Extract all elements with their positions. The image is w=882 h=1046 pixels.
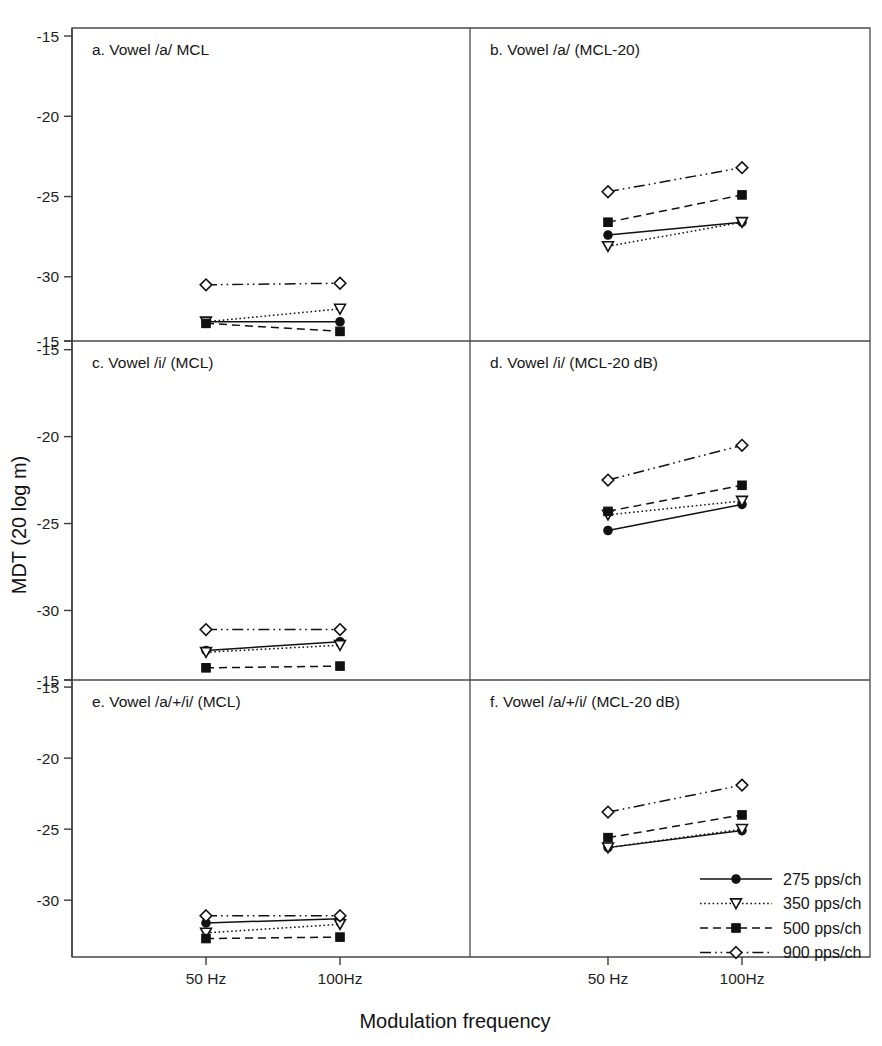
legend-item-900pps: 900 pps/ch xyxy=(700,944,861,961)
legend-label: 350 pps/ch xyxy=(783,895,861,912)
panel-title-c: c. Vowel /i/ (MCL) xyxy=(92,354,213,371)
panel-title-b: b. Vowel /a/ (MCL-20) xyxy=(490,41,640,58)
series-line-500pps xyxy=(608,195,742,222)
series-line-350pps xyxy=(206,924,340,933)
marker-filled-square xyxy=(738,811,746,819)
marker-open-diamond xyxy=(200,279,212,291)
panel-c: c. Vowel /i/ (MCL) xyxy=(92,354,346,672)
marker-open-diamond xyxy=(602,806,614,818)
y-tick-label: -30 xyxy=(37,892,60,909)
marker-filled-square xyxy=(732,924,740,932)
y-tick-label: -20 xyxy=(37,750,60,767)
legend-label: 900 pps/ch xyxy=(783,944,861,961)
x-tick-label: 50 Hz xyxy=(588,970,629,987)
marker-filled-circle xyxy=(732,875,740,883)
series-line-500pps xyxy=(206,323,340,331)
x-axis-title: Modulation frequency xyxy=(359,1010,550,1032)
x-tick-label: 100Hz xyxy=(720,970,765,987)
marker-filled-square xyxy=(604,507,612,515)
y-tick-label: -25 xyxy=(37,188,59,205)
plot-frame xyxy=(72,28,870,957)
x-tick-label: 50 Hz xyxy=(186,970,227,987)
panel-e: e. Vowel /a/+/i/ (MCL) xyxy=(92,693,346,943)
y-tick-label: -15 xyxy=(37,333,59,350)
marker-open-diamond xyxy=(334,277,346,289)
x-axis: 50 Hz100Hz50 Hz100Hz xyxy=(186,957,765,987)
panel-b: b. Vowel /a/ (MCL-20) xyxy=(490,41,748,251)
y-axis: -15-20-25-30-15-20-25-30-15-20-25-30-15-… xyxy=(37,28,72,957)
marker-filled-square xyxy=(604,833,612,841)
marker-open-diamond xyxy=(736,779,748,791)
marker-open-diamond xyxy=(602,474,614,486)
marker-filled-square xyxy=(202,319,210,327)
series-line-900pps xyxy=(608,785,742,812)
figure-svg: -15-20-25-30-15-20-25-30-15-20-25-30-15-… xyxy=(0,0,882,1046)
series-line-350pps xyxy=(206,309,340,322)
series-line-900pps xyxy=(206,283,340,285)
y-tick-label: -15 xyxy=(37,28,59,45)
marker-filled-square xyxy=(202,934,210,942)
marker-open-triangle-down xyxy=(603,242,614,252)
series-line-900pps xyxy=(608,445,742,480)
y-tick-label: -30 xyxy=(37,602,60,619)
marker-open-diamond xyxy=(736,440,748,452)
panel-title-e: e. Vowel /a/+/i/ (MCL) xyxy=(92,693,241,710)
panel-d: d. Vowel /i/ (MCL-20 dB) xyxy=(490,354,748,535)
x-tick-label: 100Hz xyxy=(318,970,363,987)
marker-open-diamond xyxy=(602,186,614,198)
y-tick-label: -25 xyxy=(37,515,59,532)
marker-filled-circle xyxy=(604,231,612,239)
legend-label: 275 pps/ch xyxy=(783,871,861,888)
marker-filled-circle xyxy=(604,526,612,534)
panel-f: f. Vowel /a/+/i/ (MCL-20 dB) xyxy=(490,693,748,853)
series-line-500pps xyxy=(206,666,340,668)
frame-outline xyxy=(72,28,870,957)
marker-open-diamond xyxy=(736,162,748,174)
marker-open-diamond xyxy=(334,624,346,636)
marker-filled-square xyxy=(336,933,344,941)
legend-label: 500 pps/ch xyxy=(783,920,861,937)
y-axis-title: MDT (20 log m) xyxy=(8,456,30,595)
marker-open-diamond xyxy=(200,910,212,922)
marker-filled-square xyxy=(202,664,210,672)
marker-filled-square xyxy=(738,191,746,199)
series-line-350pps xyxy=(608,222,742,246)
marker-filled-circle xyxy=(336,318,344,326)
legend-item-275pps: 275 pps/ch xyxy=(700,871,861,888)
y-tick-label: -20 xyxy=(37,428,60,445)
panel-title-a: a. Vowel /a/ MCL xyxy=(92,41,210,58)
panel-title-d: d. Vowel /i/ (MCL-20 dB) xyxy=(490,354,658,371)
y-tick-label: -25 xyxy=(37,821,59,838)
y-tick-label: -30 xyxy=(37,268,60,285)
legend-item-500pps: 500 pps/ch xyxy=(700,920,861,937)
y-tick-label: -20 xyxy=(37,108,60,125)
series-line-275pps xyxy=(206,919,340,923)
legend-item-350pps: 350 pps/ch xyxy=(700,895,861,912)
series-line-275pps xyxy=(608,222,742,235)
marker-filled-square xyxy=(336,327,344,335)
legend: 275 pps/ch350 pps/ch500 pps/ch900 pps/ch xyxy=(700,871,861,962)
series-line-900pps xyxy=(608,168,742,192)
y-tick-label: -15 xyxy=(37,672,59,689)
marker-filled-square xyxy=(604,218,612,226)
panel-title-f: f. Vowel /a/+/i/ (MCL-20 dB) xyxy=(490,693,680,710)
marker-open-triangle-down xyxy=(731,899,742,909)
panel-a: a. Vowel /a/ MCL xyxy=(92,41,346,336)
series-line-500pps xyxy=(608,815,742,838)
marker-filled-square xyxy=(738,481,746,489)
marker-filled-square xyxy=(336,662,344,670)
figure-container: -15-20-25-30-15-20-25-30-15-20-25-30-15-… xyxy=(0,0,882,1046)
marker-open-diamond xyxy=(200,624,212,636)
series-line-500pps xyxy=(206,937,340,938)
